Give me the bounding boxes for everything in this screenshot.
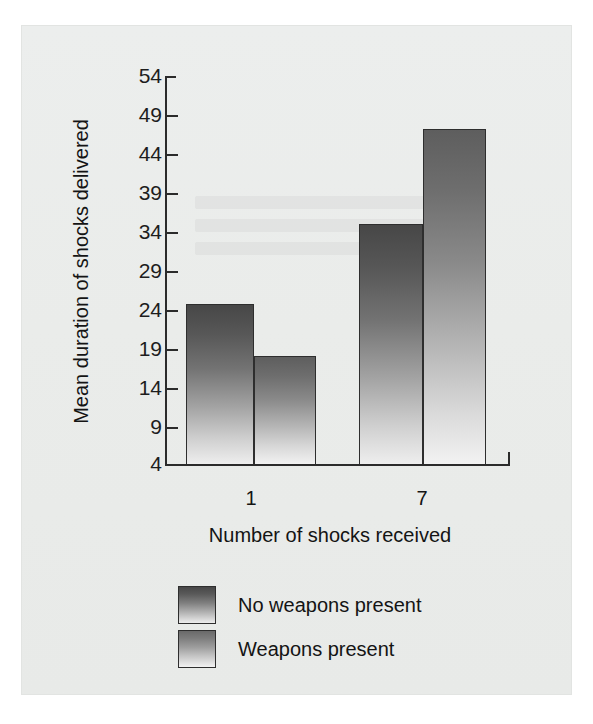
bar-cat1-no-weapons: [186, 304, 254, 465]
y-tick-49: 49: [110, 115, 178, 117]
legend-label: Weapons present: [238, 638, 394, 661]
x-axis-right-cap: [508, 452, 510, 466]
y-tick-label: 9: [118, 416, 162, 437]
bar-chart: 54 49 44 39 34 29 24 19 14: [0, 0, 593, 724]
y-tick-29: 29: [110, 271, 178, 273]
legend-label: No weapons present: [238, 594, 421, 617]
legend-swatch-icon: [178, 630, 216, 668]
bar-cat7-weapons: [423, 129, 486, 465]
y-tick-label: 49: [118, 104, 162, 125]
legend-swatch-icon: [178, 586, 216, 624]
y-tick-24: 24: [110, 310, 178, 312]
y-tick-44: 44: [110, 154, 178, 156]
y-tick-label: 29: [118, 260, 162, 281]
y-tick-14: 14: [110, 388, 178, 390]
scanned-page: 54 49 44 39 34 29 24 19 14: [0, 0, 593, 724]
y-tick-34: 34: [110, 232, 178, 234]
chart-legend: No weapons present Weapons present: [178, 583, 421, 671]
y-tick-label: 4: [118, 453, 162, 474]
y-tick-19: 19: [110, 349, 178, 351]
legend-item-weapons: Weapons present: [178, 627, 421, 671]
y-tick-label: 24: [118, 299, 162, 320]
y-tick-label: 34: [118, 221, 162, 242]
y-tick-label: 39: [118, 182, 162, 203]
bar-cat1-weapons: [254, 356, 316, 465]
y-tick-9: 9: [110, 427, 178, 429]
y-tick-54: 54: [110, 76, 178, 78]
x-tick-label-7: 7: [392, 487, 452, 510]
y-tick-label: 54: [118, 65, 162, 86]
y-axis-title: Mean duration of shocks delivered: [70, 107, 93, 437]
x-tick-label-1: 1: [221, 487, 281, 510]
y-tick-label: 14: [118, 377, 162, 398]
y-tick-label: 19: [118, 338, 162, 359]
legend-item-no-weapons: No weapons present: [178, 583, 421, 627]
x-axis-title: Number of shocks received: [120, 524, 540, 547]
x-axis-line: [165, 464, 510, 466]
bar-cat7-no-weapons: [359, 224, 423, 465]
y-tick-39: 39: [110, 193, 178, 195]
y-tick-label: 44: [118, 143, 162, 164]
